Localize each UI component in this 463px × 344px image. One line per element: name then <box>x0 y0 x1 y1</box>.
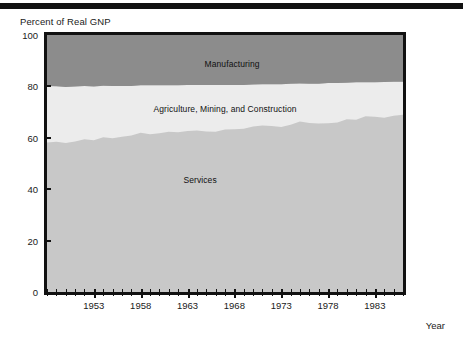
band-label-manufacturing: Manufacturing <box>205 59 260 69</box>
x-tick-mark-1949 <box>56 289 57 296</box>
stacked-area-svg <box>47 35 403 292</box>
x-tick-mark-1953 <box>94 289 96 298</box>
y-tick-mark-60 <box>44 137 51 139</box>
y-axis: 020406080100 <box>0 0 38 344</box>
plot-inner <box>47 35 403 292</box>
x-tick-mark-1981 <box>356 289 357 296</box>
x-tick-label-1978: 1978 <box>317 300 338 311</box>
x-tick-mark-1977 <box>319 289 320 296</box>
x-tick-mark-1965 <box>206 289 207 296</box>
x-tick-mark-1951 <box>75 289 76 296</box>
x-tick-mark-1962 <box>178 289 179 296</box>
x-tick-mark-1972 <box>272 289 273 296</box>
y-tick-label-60: 60 <box>27 132 38 143</box>
y-tick-label-20: 20 <box>27 235 38 246</box>
x-tick-mark-1971 <box>262 289 263 296</box>
x-tick-mark-1973 <box>281 289 283 298</box>
x-tick-label-1983: 1983 <box>364 300 385 311</box>
x-tick-label-1953: 1953 <box>83 300 104 311</box>
x-tick-mark-1969 <box>244 289 245 296</box>
x-tick-label-1973: 1973 <box>271 300 292 311</box>
x-tick-mark-1960 <box>159 289 160 296</box>
x-tick-mark-1983 <box>375 289 377 298</box>
plot-area: Services Agriculture, Mining, and Constr… <box>44 32 406 295</box>
x-tick-mark-1963 <box>188 289 190 298</box>
header-rule <box>0 3 463 9</box>
x-axis-caption: Year <box>426 320 445 331</box>
y-tick-label-40: 40 <box>27 184 38 195</box>
y-tick-label-80: 80 <box>27 81 38 92</box>
y-tick-mark-40 <box>44 188 51 190</box>
x-tick-mark-1952 <box>84 289 85 296</box>
x-tick-mark-1948 <box>47 289 48 296</box>
x-tick-mark-1956 <box>122 289 123 296</box>
x-tick-mark-1959 <box>150 289 151 296</box>
x-tick-mark-1961 <box>169 289 170 296</box>
x-tick-label-1958: 1958 <box>130 300 151 311</box>
y-tick-label-0: 0 <box>33 287 38 298</box>
x-tick-mark-1980 <box>347 289 348 296</box>
x-tick-label-1963: 1963 <box>177 300 198 311</box>
x-tick-mark-1982 <box>366 289 367 296</box>
band-label-agriculture-mining-construction: Agriculture, Mining, and Construction <box>153 104 296 114</box>
x-tick-mark-1978 <box>328 289 330 298</box>
x-tick-mark-1968 <box>234 289 236 298</box>
x-tick-mark-1975 <box>300 289 301 296</box>
x-tick-mark-1974 <box>291 289 292 296</box>
x-tick-mark-1979 <box>337 289 338 296</box>
x-tick-mark-1986 <box>403 289 404 296</box>
x-tick-mark-1966 <box>216 289 217 296</box>
x-tick-mark-1957 <box>131 289 132 296</box>
x-tick-mark-1958 <box>141 289 143 298</box>
x-tick-mark-1984 <box>384 289 385 296</box>
y-tick-mark-80 <box>44 85 51 87</box>
x-tick-mark-1950 <box>66 289 67 296</box>
y-tick-label-100: 100 <box>22 30 38 41</box>
x-tick-mark-1955 <box>113 289 114 296</box>
x-tick-mark-1985 <box>394 289 395 296</box>
x-tick-label-1968: 1968 <box>224 300 245 311</box>
x-tick-mark-1970 <box>253 289 254 296</box>
x-tick-mark-1964 <box>197 289 198 296</box>
x-tick-mark-1967 <box>225 289 226 296</box>
x-tick-mark-1954 <box>103 289 104 296</box>
x-tick-mark-1976 <box>309 289 310 296</box>
area-band-services <box>47 115 403 292</box>
band-label-services: Services <box>183 175 216 185</box>
y-tick-mark-20 <box>44 240 51 242</box>
